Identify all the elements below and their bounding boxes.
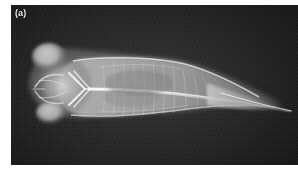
right-eye-capsule bbox=[36, 102, 66, 124]
figure-panel-a: (a) bbox=[0, 0, 298, 169]
radiograph-image: (a) bbox=[11, 5, 298, 165]
left-eye-capsule bbox=[32, 43, 66, 71]
fish-specimen-dorsal-view bbox=[11, 5, 298, 165]
panel-label: (a) bbox=[15, 9, 26, 18]
